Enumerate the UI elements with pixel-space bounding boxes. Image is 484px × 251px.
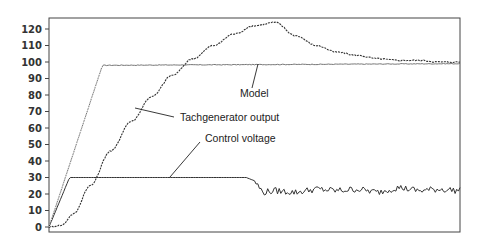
y-tick-label: 0 (35, 222, 42, 233)
y-tick-label: 90 (28, 73, 42, 84)
y-tick-label: 30 (28, 172, 42, 183)
y-tick-label: 40 (28, 156, 42, 167)
y-tick-label: 70 (28, 106, 42, 117)
tach-label: Tachgenerator output (180, 111, 279, 123)
line-chart: 0102030405060708090100110120 Model Tachg… (0, 0, 484, 251)
model-label: Model (240, 87, 269, 99)
y-tick-label: 20 (28, 189, 42, 200)
tach-leader-line (135, 108, 174, 117)
series-control-voltage (49, 178, 460, 228)
y-tick-label: 110 (21, 40, 42, 51)
y-axis: 0102030405060708090100110120 (21, 24, 49, 233)
y-tick-label: 50 (28, 139, 42, 150)
y-tick-label: 10 (28, 205, 42, 216)
plot-frame (49, 18, 460, 232)
y-tick-label: 120 (21, 24, 42, 35)
annotation-layer: Model Tachgenerator output Control volta… (135, 64, 279, 177)
model-leader-line (252, 64, 258, 88)
control-leader-line (170, 142, 200, 177)
control-label: Control voltage (205, 132, 276, 144)
series-layer (49, 22, 460, 227)
y-tick-label: 100 (21, 57, 42, 68)
series-tachgenerator-output (49, 22, 460, 227)
y-tick-label: 60 (28, 123, 42, 134)
y-tick-label: 80 (28, 90, 42, 101)
